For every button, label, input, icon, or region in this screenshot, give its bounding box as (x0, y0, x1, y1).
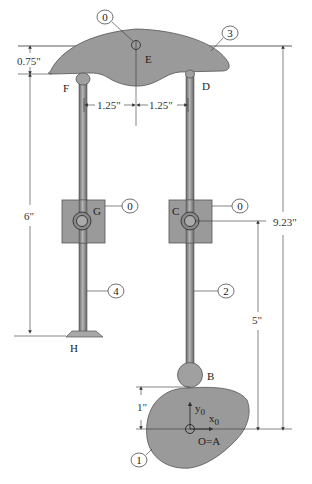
roller-b (178, 363, 203, 388)
dim-left-offset: 1.25" (97, 99, 121, 111)
part-label-0-right: 0 (237, 200, 243, 212)
point-label-f: F (63, 82, 69, 94)
point-label-c: C (172, 205, 179, 217)
part-label-1: 1 (136, 454, 142, 466)
leader-3 (211, 38, 223, 51)
foot-h (66, 331, 103, 337)
roller-d (186, 70, 195, 78)
part-label-0-left: 0 (127, 200, 133, 212)
roller-f (76, 73, 90, 85)
point-label-b: B (207, 370, 214, 382)
part-label-3: 3 (227, 27, 233, 39)
bearing-c-inner (185, 216, 196, 227)
bearing-g-inner (77, 216, 88, 227)
part-label-4: 4 (113, 285, 119, 297)
dim-guide-height: 5" (252, 314, 262, 326)
leader-1 (146, 449, 152, 455)
dim-total-height: 9.23" (273, 216, 297, 228)
dim-left-rod-length: 6" (24, 210, 34, 222)
cam (147, 387, 250, 468)
dim-rocker-thickness: 0.75" (17, 55, 41, 67)
point-label-h: H (70, 342, 78, 354)
dim-right-offset: 1.25" (149, 99, 173, 111)
point-label-d: D (202, 80, 210, 92)
rocker-plate (48, 29, 229, 86)
y-axis-sub: 0 (201, 407, 206, 417)
point-label-g: G (93, 205, 101, 217)
origin-label: O=A (198, 435, 220, 447)
point-label-e: E (145, 53, 152, 65)
x-axis-sub: 0 (215, 417, 220, 427)
cam-follower-diagram: 0 3 E F D 0.75" 1.25" 1.25" 6" G C 0 0 9… (0, 0, 312, 484)
dim-cam-rise: 1" (137, 401, 147, 413)
part-label-2: 2 (223, 285, 229, 297)
part-label-0-top: 0 (102, 11, 108, 23)
